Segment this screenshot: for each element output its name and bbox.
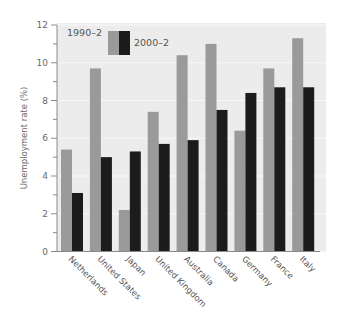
bar-united-kingdom-series1 — [148, 112, 159, 252]
bar-japan-series1 — [119, 210, 130, 252]
bar-germany-series2 — [245, 93, 256, 252]
y-tick-label: 12 — [37, 20, 48, 30]
bar-australia-series1 — [177, 55, 188, 251]
bar-united-kingdom-series2 — [159, 144, 170, 252]
bar-netherlands-series2 — [72, 193, 83, 252]
bar-canada-series1 — [206, 44, 217, 252]
bar-france-series1 — [263, 68, 274, 251]
y-tick-label: 10 — [37, 58, 49, 68]
y-tick-label: 6 — [42, 133, 48, 143]
x-axis: NetherlandsUnited StatesJapanUnited King… — [57, 252, 320, 310]
x-tick-label: Italy — [298, 254, 318, 274]
y-tick-label: 0 — [42, 247, 48, 257]
bar-australia-series2 — [188, 140, 199, 251]
bar-united-states-series2 — [101, 157, 112, 251]
bar-france-series2 — [274, 87, 285, 251]
y-axis-title: Unemployment rate (%) — [19, 87, 29, 190]
bar-japan-series2 — [130, 151, 141, 251]
y-tick-label: 8 — [42, 96, 48, 106]
y-tick-label: 4 — [42, 171, 48, 181]
bar-italy-series1 — [292, 38, 303, 251]
legend-swatch-series1 — [108, 31, 119, 55]
x-tick-label: United Kingdom — [153, 254, 208, 309]
legend-label-series2: 2000–2 — [134, 37, 169, 48]
bar-germany-series1 — [234, 131, 245, 252]
unemployment-bar-chart: 024681012 NetherlandsUnited StatesJapanU… — [0, 0, 337, 323]
legend-swatch-series2 — [119, 31, 130, 55]
bar-united-states-series1 — [90, 68, 101, 251]
bar-italy-series2 — [303, 87, 314, 251]
y-axis: 024681012 — [37, 20, 57, 257]
x-tick-label: France — [269, 254, 296, 281]
bar-netherlands-series1 — [61, 150, 72, 252]
y-tick-label: 2 — [42, 209, 48, 219]
x-tick-label: Japan — [124, 253, 149, 278]
bar-canada-series2 — [217, 110, 228, 252]
legend-label-series1: 1990–2 — [67, 27, 102, 38]
